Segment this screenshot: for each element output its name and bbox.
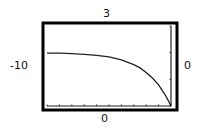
series-curve <box>47 53 171 106</box>
window-frame <box>43 23 177 110</box>
ticks <box>47 26 171 106</box>
graph-window <box>0 0 198 129</box>
axes <box>47 26 171 106</box>
